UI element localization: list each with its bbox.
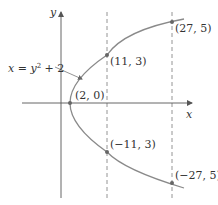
- point-upper-outer: [170, 20, 174, 24]
- y-axis-label: y: [50, 7, 56, 18]
- parabola-curve: [70, 19, 184, 188]
- point-label-lower-inner: (−11, 3): [110, 139, 156, 150]
- point-lower-inner: [105, 150, 109, 154]
- point-label-lower-outer: (−27, 5): [175, 170, 218, 181]
- equation-rest: + 2: [41, 62, 64, 75]
- point-label-vertex: (2, 0): [75, 90, 105, 101]
- point-label-upper-inner: (11, 3): [110, 56, 147, 67]
- point-lower-outer: [170, 181, 174, 185]
- equation-equals: =: [14, 62, 30, 75]
- point-label-upper-outer: (27, 5): [175, 23, 212, 34]
- point-vertex: [68, 101, 72, 105]
- x-axis-label: x: [186, 109, 192, 120]
- equation-label: x = y2 + 2: [8, 63, 64, 74]
- point-upper-inner: [105, 53, 109, 57]
- parabola-diagram: y x x = y2 + 2 (2, 0) (11, 3) (27, 5) (−…: [0, 0, 218, 205]
